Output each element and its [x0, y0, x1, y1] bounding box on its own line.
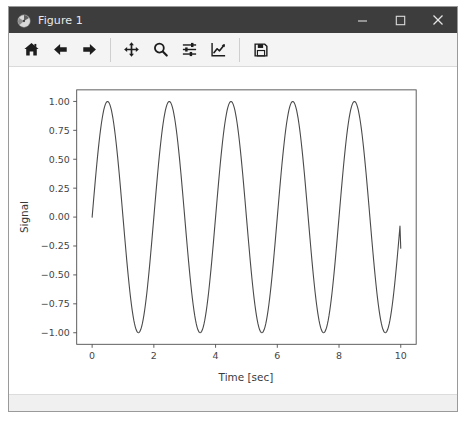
y-tick-label: −0.25 [41, 240, 70, 251]
window-titlebar[interactable]: Figure 1 [9, 7, 457, 33]
x-tick-label: 8 [336, 350, 342, 361]
subplots-button[interactable] [175, 35, 204, 65]
window-title: Figure 1 [38, 14, 343, 27]
y-tick-label: 1.00 [49, 96, 70, 107]
x-tick-label: 2 [151, 350, 157, 361]
x-tick-label: 0 [89, 350, 95, 361]
x-axis-label: Time [sec] [218, 371, 274, 383]
x-tick-label: 6 [274, 350, 280, 361]
pan-button[interactable] [117, 35, 146, 65]
home-button[interactable] [17, 35, 46, 65]
y-tick-label: 0.50 [49, 154, 70, 165]
close-button[interactable] [419, 7, 457, 33]
y-tick-label: −0.75 [41, 298, 70, 309]
y-tick-label: −1.00 [41, 327, 70, 338]
maximize-button[interactable] [381, 7, 419, 33]
minimize-button[interactable] [343, 7, 381, 33]
status-bar [9, 394, 457, 411]
zoom-button[interactable] [146, 35, 175, 65]
customize-button[interactable] [204, 35, 233, 65]
toolbar-separator [110, 38, 111, 62]
x-tick-label: 4 [213, 350, 219, 361]
figure-canvas[interactable]: 1.000.750.500.250.00−0.25−0.50−0.75−1.00… [9, 67, 457, 394]
navigation-toolbar [9, 33, 457, 67]
y-tick-label: −0.50 [41, 269, 70, 280]
back-button[interactable] [46, 35, 75, 65]
matplotlib-logo-icon [17, 13, 31, 27]
toolbar-separator [239, 38, 240, 62]
forward-button[interactable] [75, 35, 104, 65]
x-tick-label: 10 [395, 350, 407, 361]
y-tick-label: 0.75 [49, 125, 70, 136]
plot-figure: 1.000.750.500.250.00−0.25−0.50−0.75−1.00… [9, 67, 457, 394]
y-tick-label: 0.25 [49, 183, 70, 194]
y-tick-label: 0.00 [49, 211, 70, 222]
save-button[interactable] [246, 35, 275, 65]
figure-window: Figure 1 [8, 6, 458, 412]
y-axis-label: Signal [18, 201, 30, 233]
signal-plot: 1.000.750.500.250.00−0.25−0.50−0.75−1.00… [9, 67, 457, 394]
